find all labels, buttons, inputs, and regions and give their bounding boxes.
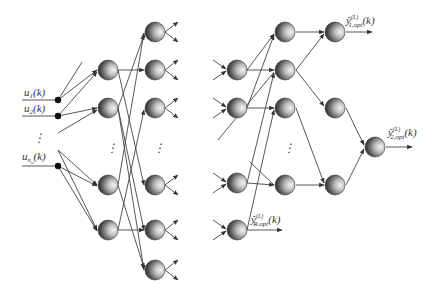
neuron-l2-6 <box>145 260 165 280</box>
neuron-lb-4 <box>275 175 295 195</box>
neuron-la-2 <box>227 98 247 118</box>
neuron-lc-1 <box>325 22 345 42</box>
neuron-lc-2 <box>325 98 345 118</box>
layer2-output-forks <box>165 22 178 280</box>
neuron-l2-1 <box>145 22 165 42</box>
neuron-output <box>365 137 385 157</box>
input-label-unu: unu(k) <box>22 150 46 165</box>
neuron-la-3 <box>227 173 247 193</box>
neuron-l1-3 <box>98 175 118 195</box>
neuron-lb-1 <box>275 22 295 42</box>
neuron-lb-3 <box>275 98 295 118</box>
input-ellipsis: ⋮ <box>33 131 45 145</box>
neuron-la-1 <box>227 60 247 80</box>
neuron-l1-4 <box>98 220 118 240</box>
layer2-ellipsis: ⋮ <box>153 141 165 155</box>
neuron-lb-2 <box>275 60 295 80</box>
neuron-l1-1 <box>98 60 118 80</box>
neuron-l2-5 <box>145 220 165 240</box>
neuron-l2-4 <box>145 175 165 195</box>
junction-dot-u2 <box>55 113 61 119</box>
input-label-u2: u2(k) <box>24 102 46 116</box>
neuron-lc-3 <box>325 175 345 195</box>
input-labels: u1(k) u2(k) unu(k) <box>22 86 46 165</box>
output-labels: ŷ(L)1,opt(k) ŷ(L)2,opt(k) ŷ(L)R,opt(k) <box>250 14 417 228</box>
neuron-l2-2 <box>145 60 165 80</box>
diagram-svg: ⋮ ⋮ ⋮ ⋮ u1(k) u2(k) unu(k) ŷ(L)1,opt(k) … <box>0 0 437 296</box>
junction-dot-unu <box>55 163 61 169</box>
input-label-u1: u1(k) <box>24 86 46 100</box>
neuron-l1-2 <box>98 98 118 118</box>
output-label-y1: ŷ(L)1,opt(k) <box>345 14 375 29</box>
neurons <box>98 22 385 280</box>
output-label-y2: ŷ(L)2,opt(k) <box>387 126 417 141</box>
layerB-ellipsis: ⋮ <box>283 141 295 155</box>
layerA-input-forks <box>213 60 226 240</box>
edges <box>22 22 412 280</box>
output-label-yR: ŷ(L)R,opt(k) <box>250 213 281 228</box>
neural-network-diagram: ⋮ ⋮ ⋮ ⋮ u1(k) u2(k) unu(k) ŷ(L)1,opt(k) … <box>0 0 437 296</box>
neuron-la-4 <box>227 220 247 240</box>
neuron-l2-3 <box>145 98 165 118</box>
layer1-ellipsis: ⋮ <box>106 141 118 155</box>
ellipses: ⋮ ⋮ ⋮ ⋮ <box>33 131 295 155</box>
junction-dot-u1 <box>55 97 61 103</box>
